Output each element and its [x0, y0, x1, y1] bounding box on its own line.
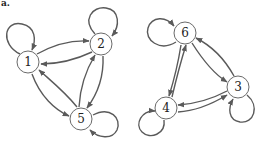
edge-2-to-1: [41, 52, 92, 64]
edge-3-to-4: [178, 91, 227, 105]
node-6: 6: [174, 22, 196, 44]
directed-graphs-figure: a. 1 2 5: [0, 0, 264, 142]
node-1-label: 1: [24, 55, 32, 69]
node-5-label: 5: [77, 112, 85, 126]
node-3-label: 3: [234, 80, 242, 94]
edge-3-to-3: [230, 95, 254, 122]
node-6-label: 6: [181, 26, 189, 40]
node-1: 1: [17, 51, 39, 73]
left-graph: 1 2 5: [7, 8, 118, 137]
edge-6-to-6: [147, 19, 176, 46]
node-5: 5: [70, 108, 92, 130]
node-4-label: 4: [162, 101, 170, 115]
node-3: 3: [227, 76, 249, 98]
node-2: 2: [90, 33, 112, 55]
edge-1-to-1: [7, 24, 35, 54]
edge-2-to-2: [89, 8, 117, 36]
node-2-label: 2: [97, 37, 105, 51]
edge-5-to-1: [39, 70, 77, 107]
edge-4-to-3: [178, 95, 227, 112]
edge-1-to-2: [37, 41, 89, 54]
figure-label: a.: [1, 0, 10, 8]
edge-6-to-3: [192, 43, 227, 82]
edge-2-to-5: [87, 56, 103, 108]
node-4: 4: [155, 97, 177, 119]
right-graph: 6 3 4: [139, 19, 254, 136]
edge-5-to-5: [90, 112, 118, 137]
